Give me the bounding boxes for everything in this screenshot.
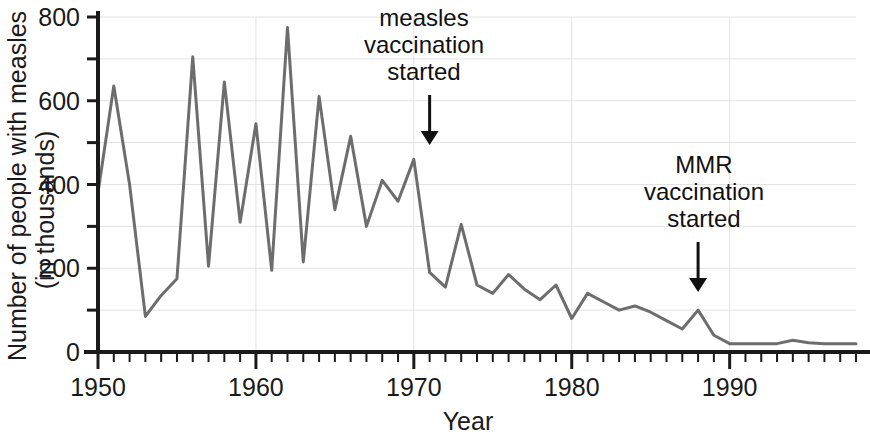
measles-incidence-chart: 0200400600800 19501960197019801990 Year … [0, 0, 870, 437]
measles-down-arrow-icon [421, 95, 439, 145]
y-tick-label: 800 [38, 3, 80, 31]
mmr-anno-line-2: vaccination [644, 178, 764, 205]
chart-canvas: 0200400600800 19501960197019801990 Year … [0, 0, 870, 437]
annotation-measles-vaccination: measles vaccination started [364, 4, 484, 145]
annotation-mmr-vaccination: MMR vaccination started [644, 151, 764, 292]
mmr-anno-line-3: started [667, 205, 740, 232]
measles-anno-line-2: vaccination [364, 31, 484, 58]
y-axis-title-line1: Number of people with measles [3, 11, 31, 361]
y-tick-label: 600 [38, 87, 80, 115]
x-axis-title: Year [443, 407, 494, 435]
y-tick-label: 0 [66, 338, 80, 366]
x-tick-label: 1980 [544, 373, 600, 401]
x-tick-label: 1960 [228, 373, 284, 401]
x-tick-label: 1990 [702, 373, 758, 401]
x-tick-labels: 19501960197019801990 [70, 373, 757, 401]
x-tick-label: 1970 [386, 373, 442, 401]
mmr-down-arrow-icon [689, 242, 707, 292]
arrow-head [689, 278, 707, 292]
mmr-anno-line-1: MMR [675, 151, 732, 178]
measles-anno-line-1: measles [379, 4, 468, 31]
measles-anno-line-3: started [387, 58, 460, 85]
y-axis-title-line2: (in thousands) [31, 131, 59, 289]
x-tick-label: 1950 [70, 373, 126, 401]
